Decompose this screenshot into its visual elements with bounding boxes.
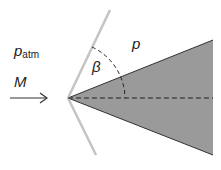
flow-arrow-icon [10, 93, 47, 103]
mach-label: M [14, 73, 27, 90]
post-shock-pressure-label: p [131, 35, 140, 52]
ambient-pressure-label: patm [13, 42, 39, 60]
shock-angle-label: β [91, 58, 101, 75]
oblique-shock-diagram: patm M β p [0, 0, 221, 170]
